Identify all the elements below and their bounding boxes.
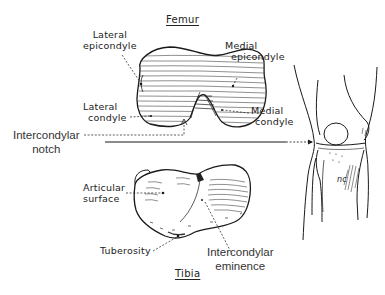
label-line: eminence [207,259,273,273]
label-line: surface [83,193,125,204]
label-line: Medial [225,40,285,51]
label-lateral-condyle: Lateral condyle [83,101,127,123]
knee-anatomy-figure: Femur Lateral epicondyle Medial epicondy… [0,0,385,295]
label-tuberosity: Tuberosity [100,245,151,256]
label-line: epicondyle [83,40,137,51]
label-articular-surface: Articular surface [83,182,125,204]
label-intercondylar-notch: Intercondylar notch [13,128,79,156]
label-line: Lateral [83,101,127,112]
label-line: Articular [83,182,125,193]
label-lateral-epicondyle: Lateral epicondyle [83,29,137,51]
label-line: condyle [83,112,127,123]
label-intercondylar-eminence: Intercondylar eminence [207,245,273,273]
label-line: Intercondylar [207,245,273,259]
artist-signature: nc [337,174,347,185]
tibia-title: Tibia [175,268,200,279]
knee-front-view [294,65,377,240]
label-line: notch [13,142,79,156]
label-line: Intercondylar [13,128,79,142]
label-medial-condyle: Medial condyle [251,105,294,127]
pointer-line [105,140,313,145]
label-line: Medial [251,105,294,116]
label-line: condyle [251,116,294,127]
label-line: epicondyle [225,51,285,62]
femur-title: Femur [166,14,199,25]
label-line: Lateral [83,29,137,40]
tibia-drawing [134,165,250,238]
label-medial-epicondyle: Medial epicondyle [225,40,285,62]
